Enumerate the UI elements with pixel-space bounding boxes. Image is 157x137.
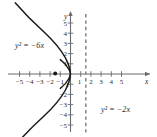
y-axis-label: y (63, 12, 68, 21)
y-tick-label: −5 (60, 122, 68, 130)
y-tick-label: 3 (64, 40, 68, 48)
y-tick-label: −3 (60, 101, 68, 109)
x-tick-label: 5 (120, 78, 124, 86)
x-tick-label: −4 (26, 78, 34, 86)
equation-label-left-curve: y² = −6x (15, 41, 44, 50)
x-tick-label: 4 (110, 78, 114, 86)
y-tick-label: 4 (64, 30, 68, 38)
x-tick-label: −2 (46, 78, 54, 86)
equation-label-right-curve: y² = −2x (101, 105, 130, 114)
coordinate-plot: −5 −4 −3 −2 −1 1 2 3 4 5 5 4 3 2 1 −1 −2… (0, 0, 157, 137)
x-axis-label: x (144, 77, 149, 86)
x-tick-label: −5 (16, 78, 24, 86)
focus-point-marker (53, 72, 57, 76)
parabola-figure: −5 −4 −3 −2 −1 1 2 3 4 5 5 4 3 2 1 −1 −2… (0, 0, 157, 137)
x-tick-label: −3 (36, 78, 44, 86)
x-tick-label: 3 (99, 78, 103, 86)
y-tick-label: −4 (60, 111, 68, 119)
x-tick-label: 1 (78, 78, 82, 86)
x-tick-label: 2 (89, 78, 93, 86)
